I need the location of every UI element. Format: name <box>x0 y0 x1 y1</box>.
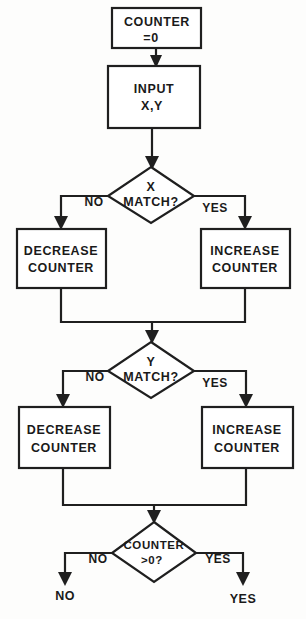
node-y-yes-increase-line2: COUNTER <box>214 441 280 455</box>
node-y-yes-increase-line1: INCREASE <box>212 423 281 437</box>
node-y-match-line2: MATCH? <box>123 370 178 384</box>
node-counter-gt0-line1: COUNTER <box>123 539 184 551</box>
connector-xno-box-to-merge <box>61 288 152 322</box>
node-counter-gt0-line2: >0? <box>141 554 163 566</box>
connector-xyes-box-to-merge <box>152 288 245 322</box>
node-counter-gt0[interactable]: COUNTER >0? <box>112 522 196 582</box>
node-x-yes-increase-line1: INCREASE <box>210 244 279 258</box>
node-y-match[interactable]: Y MATCH? <box>108 342 194 398</box>
node-x-yes-increase-line2: COUNTER <box>212 261 278 275</box>
connector-input-to-xmatch <box>145 128 159 170</box>
node-x-match[interactable]: X MATCH? <box>108 167 194 223</box>
node-y-no-decrease[interactable]: DECREASE COUNTER <box>19 407 110 468</box>
node-x-no-decrease-line1: DECREASE <box>24 244 98 258</box>
branch-label-y-yes: YES <box>202 376 228 390</box>
node-x-no-decrease-shape <box>17 229 106 288</box>
node-x-match-line1: X <box>147 180 156 194</box>
branch-label-y-no: NO <box>86 370 105 384</box>
node-init-line1: COUNTER <box>124 15 190 29</box>
connector-yno-box-to-merge <box>63 468 154 505</box>
node-y-no-decrease-line1: DECREASE <box>27 423 101 437</box>
connector-yyes-box-to-merge <box>154 468 246 505</box>
flowchart-canvas: COUNTER =0 INPUT X,Y X MATCH? NO YES DEC… <box>0 0 306 619</box>
terminal-label-no: NO <box>55 589 75 603</box>
flowchart-svg: COUNTER =0 INPUT X,Y X MATCH? NO YES DEC… <box>0 0 306 619</box>
node-x-yes-increase[interactable]: INCREASE COUNTER <box>201 229 290 288</box>
branch-label-x-yes: YES <box>202 201 228 215</box>
node-y-no-decrease-line2: COUNTER <box>31 441 97 455</box>
node-x-yes-increase-shape <box>201 229 290 288</box>
node-x-no-decrease-line2: COUNTER <box>28 261 94 275</box>
node-init[interactable]: COUNTER =0 <box>112 8 201 48</box>
node-input-line1: INPUT <box>134 82 175 96</box>
node-y-yes-increase-shape <box>202 407 293 468</box>
node-y-match-line1: Y <box>147 355 156 369</box>
node-input-line2: X,Y <box>141 99 163 113</box>
node-init-line2: =0 <box>143 31 158 45</box>
node-y-no-decrease-shape <box>19 407 110 468</box>
branch-label-final-no: NO <box>89 552 108 566</box>
node-input-shape <box>108 66 200 128</box>
node-counter-gt0-shape <box>112 522 196 582</box>
node-x-no-decrease[interactable]: DECREASE COUNTER <box>17 229 106 288</box>
connector-merge-to-ymatch <box>145 322 159 344</box>
terminal-label-yes: YES <box>230 592 257 606</box>
branch-label-x-no: NO <box>85 195 104 209</box>
node-input[interactable]: INPUT X,Y <box>108 66 200 128</box>
node-y-yes-increase[interactable]: INCREASE COUNTER <box>202 407 293 468</box>
branch-label-final-yes: YES <box>205 552 231 566</box>
node-x-match-line2: MATCH? <box>123 195 178 209</box>
